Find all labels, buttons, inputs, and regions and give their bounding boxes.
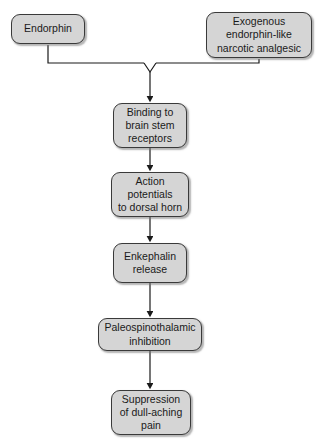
node-action-potentials-dorsal-horn: Action potentials to dorsal horn — [111, 172, 189, 217]
node-suppression-label: Suppression of dull-aching pain — [120, 393, 182, 433]
node-suppression-of-dull-aching-pain: Suppression of dull-aching pain — [111, 390, 191, 435]
node-exogenous-label: Exogenous endorphin-like narcotic analge… — [217, 15, 301, 55]
node-paleospinothalamic-inhibition: Paleospinothalamic inhibition — [98, 318, 202, 351]
edge-exogenous-to-merge — [156, 59, 259, 63]
merge-junction-notch — [144, 63, 156, 72]
node-enkephalin-release: Enkephalin release — [113, 243, 187, 283]
node-paleospino-label: Paleospinothalamic inhibition — [104, 321, 195, 347]
node-action-label: Action potentials to dorsal horn — [118, 175, 182, 215]
flowchart-diagram: — — — · · · · · · · · · · · · · · — [0, 0, 320, 446]
connector-lines — [0, 0, 320, 446]
node-exogenous-narcotic-analgesic: Exogenous endorphin-like narcotic analge… — [206, 12, 312, 58]
node-endorphin-label: Endorphin — [24, 22, 72, 35]
node-binding-label: Binding to brain stem receptors — [125, 106, 174, 146]
node-enkephalin-label: Enkephalin release — [124, 250, 176, 276]
node-endorphin: Endorphin — [11, 14, 85, 44]
node-binding-brain-stem-receptors: Binding to brain stem receptors — [113, 103, 187, 148]
edge-endorphin-to-merge — [48, 45, 144, 63]
